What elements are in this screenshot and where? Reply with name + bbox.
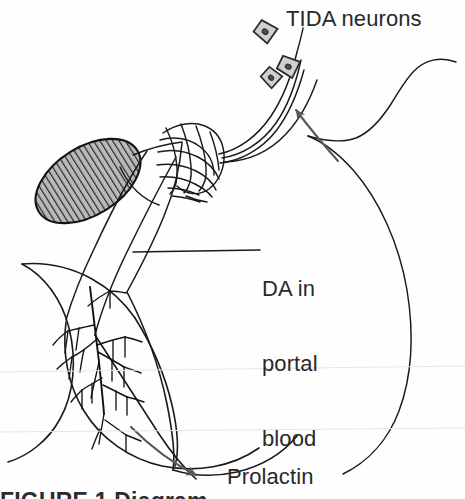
- axon-bundle: [219, 28, 317, 163]
- label-da-portal-blood-line2: portal: [262, 351, 318, 376]
- da-portal-blood-leader: [133, 250, 260, 252]
- label-da-portal-blood: DA in portal blood: [262, 226, 318, 499]
- label-prolactin: Prolactin: [227, 464, 314, 489]
- label-da-portal-blood-line3: blood: [262, 426, 318, 451]
- figure-caption: FIGURE 1 Diagram: [0, 488, 465, 499]
- median-eminence-plexus: [157, 124, 224, 202]
- label-da-portal-blood-line1: DA in: [262, 276, 318, 301]
- figure-canvas: TIDA neurons DA in portal blood Prolacti…: [0, 0, 465, 499]
- anatomy-linework: [0, 0, 465, 499]
- feedback-arrow-to-tida-shaft: [296, 110, 338, 161]
- label-tida-neurons: TIDA neurons: [286, 6, 422, 31]
- prolactin-output-arrow-shaft: [131, 427, 196, 475]
- optic-chiasm: [21, 121, 155, 240]
- feedback-loop-curve: [308, 59, 456, 474]
- tida-cell-body-1: [252, 18, 277, 43]
